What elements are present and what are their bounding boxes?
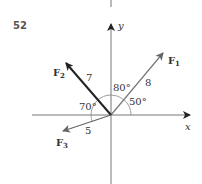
x-axis-label: x	[185, 121, 191, 132]
f3-magnitude: 5	[85, 125, 91, 136]
f1-magnitude: 8	[145, 77, 151, 88]
angle-70-label: 70°	[79, 101, 97, 112]
angle-50-label: 50°	[129, 96, 147, 107]
f3-label: F3	[56, 137, 68, 150]
y-axis-label: y	[117, 20, 124, 31]
f1-label: F1	[168, 55, 180, 68]
force-diagram: y x F1 F2 F3 8 7 5 50° 80° 70°	[0, 0, 202, 184]
arc-80	[97, 95, 124, 101]
f2-label: F2	[53, 67, 65, 80]
f2-magnitude: 7	[86, 72, 92, 83]
angle-80-label: 80°	[113, 82, 131, 93]
